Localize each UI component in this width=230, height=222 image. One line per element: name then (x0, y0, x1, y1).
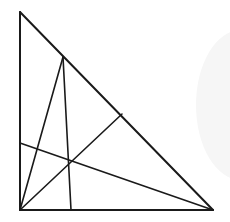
triangle-diagram (0, 0, 230, 222)
segments-group (20, 12, 213, 210)
segment-de (63, 57, 71, 210)
segment-gb (20, 143, 213, 210)
segment-ab (20, 12, 213, 210)
segment-cd (20, 57, 63, 210)
